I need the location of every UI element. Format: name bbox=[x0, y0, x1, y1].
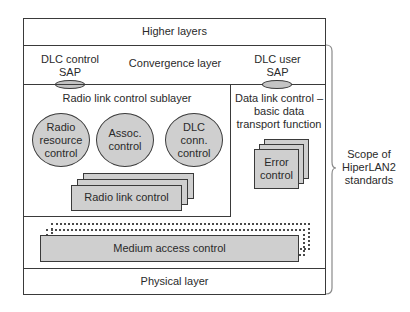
error-line2: control bbox=[254, 169, 299, 182]
convergence-layer-label: Convergence layer bbox=[120, 57, 230, 70]
rrc-line3: control bbox=[40, 147, 83, 160]
rlc-sublayer-title: Radio link control sublayer bbox=[23, 92, 231, 105]
assoc-line1: Assoc. bbox=[108, 127, 141, 140]
scope-line2: HiperLAN2 bbox=[337, 161, 401, 174]
physical-divider bbox=[23, 268, 326, 269]
dlc-control-sap-label: DLC control SAP bbox=[30, 53, 110, 79]
dlcc-line3: control bbox=[177, 147, 210, 160]
scope-label: Scope of HiperLAN2 standards bbox=[337, 148, 401, 187]
dlcc-line1: DLC bbox=[177, 121, 210, 134]
assoc-line2: control bbox=[108, 140, 141, 153]
dlc-user-sap-line2: SAP bbox=[240, 66, 315, 79]
error-line1: Error bbox=[254, 156, 299, 169]
scope-line3: standards bbox=[337, 174, 401, 187]
physical-layer-label: Physical layer bbox=[23, 275, 326, 288]
dlc-control-sap-line1: DLC control bbox=[30, 53, 110, 66]
rrc-line1: Radio bbox=[40, 121, 83, 134]
dlcc-line2: conn. bbox=[177, 134, 210, 147]
error-control-label: Error control bbox=[254, 156, 299, 182]
radio-resource-control-node: Radio resource control bbox=[32, 113, 90, 167]
dlc-line2: basic data bbox=[232, 105, 326, 118]
scope-line1: Scope of bbox=[337, 148, 401, 161]
dlc-basic-transport-label: Data link control – basic data transport… bbox=[232, 92, 326, 131]
dlc-line1: Data link control – bbox=[232, 92, 326, 105]
assoc-control-node: Assoc. control bbox=[96, 113, 154, 167]
dlc-conn-control-node: DLC conn. control bbox=[165, 113, 223, 167]
dlc-user-sap-icon bbox=[262, 80, 292, 89]
dlc-user-sap-line1: DLC user bbox=[240, 53, 315, 66]
rrc-line2: resource bbox=[40, 134, 83, 147]
rlc-stack-label: Radio link control bbox=[71, 191, 182, 204]
dlc-line3: transport function bbox=[232, 118, 326, 131]
scope-brace-icon bbox=[324, 44, 338, 296]
dlc-control-sap-line2: SAP bbox=[30, 66, 110, 79]
mac-label: Medium access control bbox=[40, 242, 299, 255]
higher-layers-label: Higher layers bbox=[23, 25, 326, 38]
dlc-user-sap-label: DLC user SAP bbox=[240, 53, 315, 79]
